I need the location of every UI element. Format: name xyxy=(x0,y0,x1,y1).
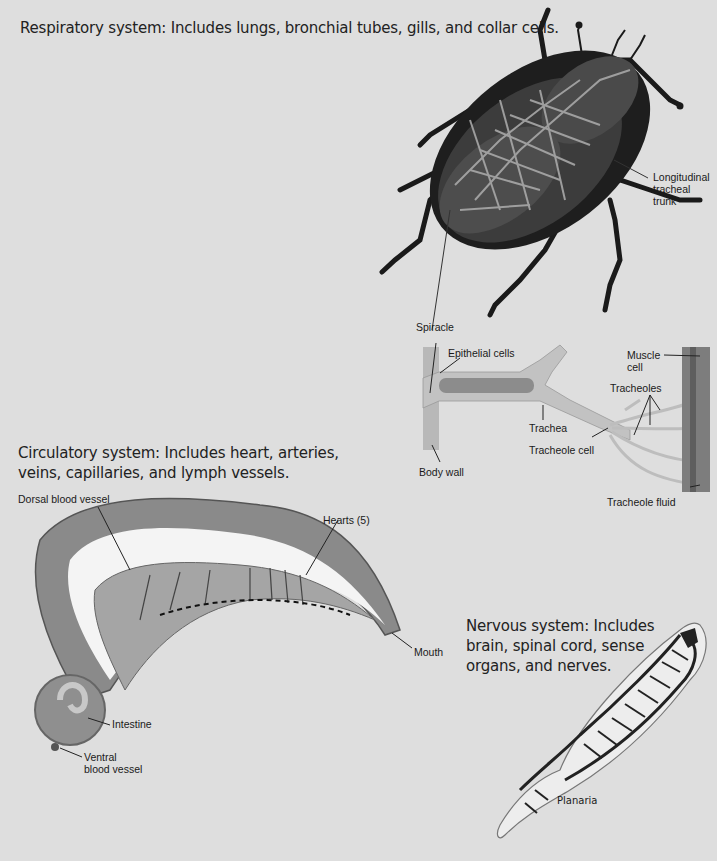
label-longitudinal-tracheal-trunk: Longitudinal tracheal trunk xyxy=(653,171,710,207)
label-hearts: Hearts (5) xyxy=(323,514,370,526)
label-tracheoles: Tracheoles xyxy=(610,382,662,394)
trachea-diagram xyxy=(423,343,710,492)
label-epithelial-cells: Epithelial cells xyxy=(448,347,515,359)
earthworm-illustration xyxy=(35,498,412,757)
label-trachea: Trachea xyxy=(529,422,567,434)
beetle-illustration xyxy=(382,10,700,330)
label-planaria: Planaria xyxy=(557,795,597,807)
nervous-heading: Nervous system: Includes brain, spinal c… xyxy=(466,616,654,676)
label-tracheole-cell: Tracheole cell xyxy=(529,444,594,456)
label-dorsal-blood-vessel: Dorsal blood vessel xyxy=(18,493,110,505)
label-body-wall: Body wall xyxy=(419,466,464,478)
circulatory-heading: Circulatory system: Includes heart, arte… xyxy=(18,443,339,483)
label-intestine: Intestine xyxy=(112,718,152,730)
label-muscle-cell: Muscle cell xyxy=(627,349,660,373)
label-spiracle: Spiracle xyxy=(416,321,454,333)
label-ventral-blood-vessel: Ventral blood vessel xyxy=(84,751,142,775)
illustrations xyxy=(0,0,717,861)
label-tracheole-fluid: Tracheole fluid xyxy=(607,496,675,508)
label-mouth: Mouth xyxy=(414,646,443,658)
